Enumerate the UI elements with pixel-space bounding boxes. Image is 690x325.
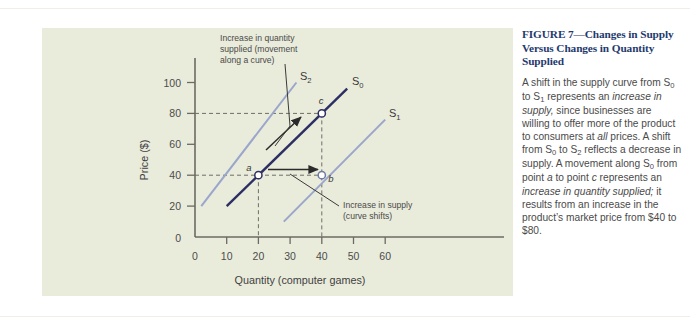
x-axis-tick-labels: 0 10 20 30 40 50 60	[192, 250, 391, 262]
y-tick-label-40: 40	[169, 169, 181, 181]
supply-curve-chart: 100 80 60 40 20 0 Price ($) 0 10 20 30 4…	[42, 28, 513, 296]
caption-text-10: represents an	[597, 172, 662, 183]
annotation-movement-line3: along a curve)	[220, 55, 275, 65]
supply-curve-S0	[227, 89, 348, 206]
y-tick-label-100: 100	[163, 77, 181, 89]
caption-sub-s0-b: 0	[552, 148, 556, 157]
supply-curve-S2	[201, 83, 296, 207]
annotation-shift-line2: (curve shifts)	[343, 211, 392, 221]
caption-sub-s2-b: 2	[577, 148, 581, 157]
y-axis-tick-labels: 100 80 60 40 20 0	[163, 77, 181, 244]
caption-em-all: all	[597, 131, 607, 142]
curve-label-S1: S1	[389, 107, 401, 122]
x-axis-title: Quantity (computer games)	[235, 274, 366, 286]
y-tick-label-20: 20	[169, 200, 181, 212]
x-tick-label-40: 40	[316, 250, 328, 262]
figure-caption-body: A shift in the supply curve from S0 to S…	[522, 76, 682, 237]
data-point-label-c: c	[319, 95, 324, 106]
data-point-a	[255, 172, 262, 179]
caption-text-6: to S	[556, 144, 577, 155]
figure-root: 100 80 60 40 20 0 Price ($) 0 10 20 30 4…	[0, 0, 690, 325]
data-point-labels: a b c	[246, 95, 333, 184]
data-point-c	[318, 110, 325, 117]
x-tick-label-30: 30	[284, 250, 296, 262]
caption-em-increase-in-qty: increase in quantity supplied;	[522, 186, 653, 197]
annotation-movement-line2: supplied (movement	[220, 44, 298, 54]
annotation-curve-shift: Increase in supply (curve shifts)	[343, 200, 413, 221]
y-axis-ticks	[187, 83, 195, 207]
figure-caption-title: FIGURE 7—Changes in Supply Versus Change…	[522, 28, 682, 69]
curve-labels: S2 S0 S1	[300, 70, 401, 122]
x-tick-label-10: 10	[221, 250, 233, 262]
data-point-b	[318, 172, 325, 179]
annotation-movement-along-curve: Increase in quantity supplied (movement …	[220, 33, 298, 65]
y-tick-label-60: 60	[169, 138, 181, 150]
y-tick-label-0: 0	[175, 232, 181, 244]
caption-text-1: A shift in the supply curve from S	[522, 77, 670, 88]
x-axis-ticks	[227, 237, 386, 244]
quantity-supplied-arrow	[266, 117, 301, 150]
curve-label-S2: S2	[300, 70, 312, 85]
y-tick-label-80: 80	[169, 107, 181, 119]
x-tick-label-0: 0	[192, 250, 198, 262]
caption-text-3: represents an	[544, 91, 612, 102]
x-tick-label-50: 50	[348, 250, 360, 262]
caption-text-2: to S	[522, 91, 540, 102]
x-tick-label-60: 60	[379, 250, 391, 262]
caption-sub-s1-a: 1	[540, 95, 544, 104]
caption-sub-s0-a: 0	[670, 81, 674, 90]
data-point-label-b: b	[328, 173, 333, 184]
annotation-movement-line1: Increase in quantity	[220, 33, 295, 43]
y-axis-title: Price ($)	[138, 140, 150, 181]
figure-caption: FIGURE 7—Changes in Supply Versus Change…	[522, 28, 682, 237]
annotation-shift-line1: Increase in supply	[343, 200, 413, 210]
caption-text-9: to point	[553, 172, 592, 183]
caption-sub-s0-c: 0	[650, 162, 654, 171]
x-tick-label-20: 20	[253, 250, 265, 262]
data-point-label-a: a	[246, 162, 251, 173]
curve-label-S0: S0	[352, 75, 364, 90]
